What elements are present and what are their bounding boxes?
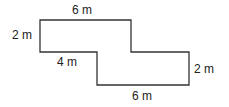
label-right: 2 m <box>194 63 214 75</box>
label-left: 2 m <box>12 29 32 41</box>
shape-outline <box>0 0 229 107</box>
label-top: 6 m <box>72 4 92 16</box>
shape-polygon <box>40 20 189 85</box>
label-bottom: 6 m <box>132 90 152 102</box>
composite-shape-diagram: 6 m 2 m 4 m 2 m 6 m <box>0 0 229 107</box>
label-inner-bottom-left: 4 m <box>57 56 77 68</box>
